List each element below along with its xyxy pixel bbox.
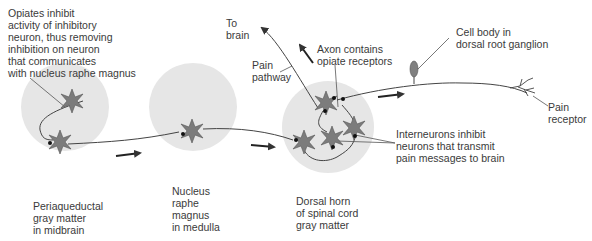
to-brain-label: To brain (226, 17, 249, 41)
cell-body-label: Cell body in dorsal root ganglion (456, 26, 548, 50)
synapse-dot (48, 141, 52, 145)
dorsal-horn-label: Dorsal horn of spinal cord gray matter (296, 195, 358, 231)
pain-pathway-label: Pain pathway (252, 59, 291, 83)
dorsal-root-ganglion-cell-body (410, 61, 418, 77)
periaqueductal-label: Periaqueductal gray matter in midbrain (33, 200, 103, 236)
cell-body-pointer-line (418, 38, 449, 69)
synapse-dot (294, 138, 298, 142)
synapse-dot (332, 96, 336, 100)
synapse-dot (341, 97, 345, 101)
flow-arrow-up (300, 45, 313, 63)
pain-receptor-label: Pain receptor (548, 101, 587, 125)
synapse-dot (353, 134, 357, 138)
axon-opiate-receptors-label: Axon contains opiate receptors (317, 43, 392, 67)
afferent-pain-fiber (337, 83, 527, 100)
pain-receptor-endings (510, 78, 535, 96)
flow-arrow-2 (251, 145, 274, 147)
synapse-dot (181, 132, 185, 136)
flow-arrow-3 (378, 94, 403, 97)
raphe-magnus-label: Nucleus raphe magnus in medulla (172, 185, 220, 233)
interneurons-label: Interneurons inhibit neurons that transm… (396, 128, 505, 164)
synapse-dot (323, 109, 327, 113)
synapse-dot (331, 145, 335, 149)
flow-arrow-1 (116, 153, 140, 156)
pain-receptor-pointer-line (533, 96, 548, 106)
opiates-note-label: Opiates inhibit activity of inhibitory n… (8, 7, 136, 79)
